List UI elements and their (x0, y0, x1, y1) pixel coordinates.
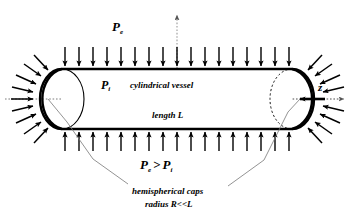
leader-line-left (67, 122, 128, 184)
radial-arrow-left (24, 64, 41, 76)
pressure-vessel-figure: Pe Pi cylindrical vessel length L z Pe>P… (0, 0, 354, 217)
caption-line-1: hemispherical caps (132, 186, 204, 196)
relation-right-sub: i (170, 165, 172, 173)
relation-left-sub: e (148, 165, 151, 173)
relation-operator: > (153, 157, 161, 172)
z-axis-label: z (317, 81, 323, 93)
radial-arrow-left (24, 122, 41, 134)
caption-line-2: radius R<<L (145, 199, 193, 209)
pressure-relation-label: Pe>Pi (140, 157, 172, 173)
radial-arrow-right (323, 106, 344, 111)
radial-arrow-right (315, 122, 332, 134)
top-pressure-arrows (65, 47, 289, 66)
radial-arrow-left (34, 55, 48, 70)
radial-arrow-right (323, 87, 344, 92)
radial-arrow-right (315, 64, 332, 76)
vessel-name-label: cylindrical vessel (130, 80, 194, 90)
external-pressure-sub: e (120, 27, 123, 35)
radial-arrow-left (16, 114, 36, 123)
radial-arrow-right (308, 55, 322, 70)
radial-arrow-left (12, 87, 33, 92)
radial-arrow-right (320, 114, 340, 123)
internal-pressure-sub: i (108, 85, 110, 93)
radial-arrow-left (12, 106, 33, 111)
vessel-length-label: length L (152, 110, 184, 120)
radial-arrow-left (34, 128, 48, 143)
radial-arrow-left (16, 75, 36, 84)
figure-canvas: Pe Pi cylindrical vessel length L z Pe>P… (0, 0, 354, 217)
radial-arrow-right (320, 75, 340, 84)
external-pressure-label: Pe (112, 19, 123, 35)
bottom-pressure-arrows (65, 132, 289, 151)
radial-arrow-right (308, 128, 322, 143)
